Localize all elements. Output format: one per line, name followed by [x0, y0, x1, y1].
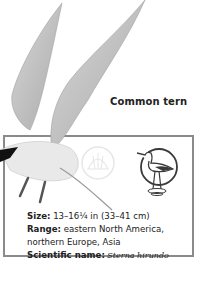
scientific-name-label: Scientific name: [27, 250, 105, 260]
species-info: Size: 13–16¼ in (33–41 cm) Range: easter… [27, 210, 187, 262]
shell-icon [80, 145, 116, 181]
size-row: Size: 13–16¼ in (33–41 cm) [27, 210, 187, 223]
size-value: 13–16¼ in (33–41 cm) [50, 211, 149, 221]
size-label: Size: [27, 211, 50, 221]
scientific-name-value: Sterna hirundo [105, 251, 169, 260]
range-label: Range: [27, 224, 61, 234]
species-title: Common tern [110, 96, 187, 107]
wading-bird-icon [133, 145, 183, 197]
range-row: Range: eastern North America, northern E… [27, 223, 187, 249]
scientific-name-row: Scientific name: Sterna hirundo [27, 249, 187, 262]
